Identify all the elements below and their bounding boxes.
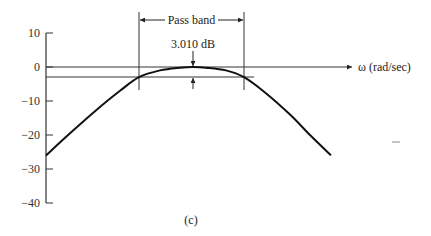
y-tick-label: −30 (21, 162, 40, 176)
passband-label: Pass band (168, 13, 216, 27)
passband-annotation: Pass band (140, 13, 243, 27)
y-tick-label: −20 (21, 128, 40, 142)
figure-caption: (c) (184, 213, 197, 227)
y-axis: 100−10−20−30−40 (21, 26, 53, 210)
attenuation-label: 3.010 dB (171, 37, 215, 51)
x-axis-label: ω (rad/sec) (358, 60, 411, 74)
y-tick-label: −40 (21, 196, 40, 210)
attenuation-annotation: 3.010 dB (171, 37, 215, 89)
y-tick-label: 10 (28, 26, 40, 40)
response-curve (46, 67, 331, 155)
y-tick-label: 0 (34, 60, 40, 74)
frequency-response-chart: 100−10−20−30−40 ω (rad/sec) Pass band 3.… (0, 0, 431, 236)
y-tick-label: −10 (21, 94, 40, 108)
